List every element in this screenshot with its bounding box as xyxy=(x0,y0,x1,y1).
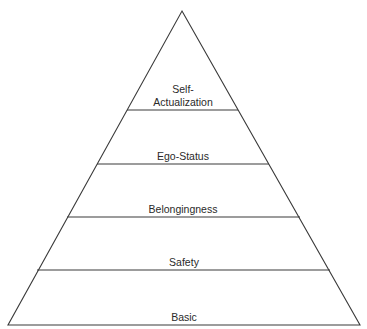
level-label-self-line2: Actualization xyxy=(153,96,213,108)
level-belongingness: Belongingness xyxy=(149,203,218,215)
level-label-ego-status: Ego-Status xyxy=(157,150,209,162)
level-label-self-line1: Self- xyxy=(172,83,194,95)
pyramid-outline xyxy=(8,11,360,325)
level-label-basic: Basic xyxy=(171,311,197,323)
needs-pyramid-diagram: Self- Actualization Ego-Status Belonging… xyxy=(0,0,367,329)
level-basic: Basic xyxy=(171,311,197,323)
level-safety: Safety xyxy=(169,256,200,268)
level-label-belongingness: Belongingness xyxy=(149,203,218,215)
level-ego-status: Ego-Status xyxy=(157,150,209,162)
level-label-safety: Safety xyxy=(169,256,200,268)
